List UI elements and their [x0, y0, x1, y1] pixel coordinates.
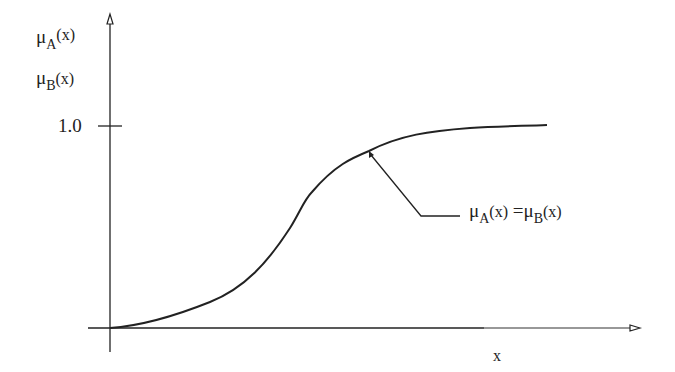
- y-axis-arrow-icon: [107, 14, 113, 24]
- y-tick-label: 1.0: [58, 116, 82, 135]
- argument: (x): [543, 203, 562, 220]
- membership-function-diagram: [0, 0, 675, 372]
- mu-symbol: μ: [523, 200, 533, 221]
- y-label-mu-a: μA(x): [36, 27, 75, 46]
- equals-sign: =: [513, 200, 524, 221]
- mu-symbol: μ: [36, 67, 46, 88]
- y-label-mu-b: μB(x): [36, 68, 74, 87]
- subscript-a: A: [479, 211, 489, 226]
- annotation-label: μA(x) =μB(x): [469, 201, 562, 220]
- x-axis-arrow-icon: [630, 325, 640, 331]
- subscript-b: B: [46, 78, 55, 93]
- subscript-a: A: [46, 37, 56, 52]
- argument: (x): [489, 203, 508, 220]
- annotation-leader: [371, 155, 460, 216]
- membership-curve: [110, 125, 547, 328]
- argument: (x): [56, 70, 75, 87]
- mu-symbol: μ: [36, 26, 46, 47]
- argument: (x): [56, 26, 75, 43]
- subscript-b: B: [534, 211, 543, 226]
- x-axis-label: x: [493, 348, 501, 364]
- mu-symbol: μ: [469, 200, 479, 221]
